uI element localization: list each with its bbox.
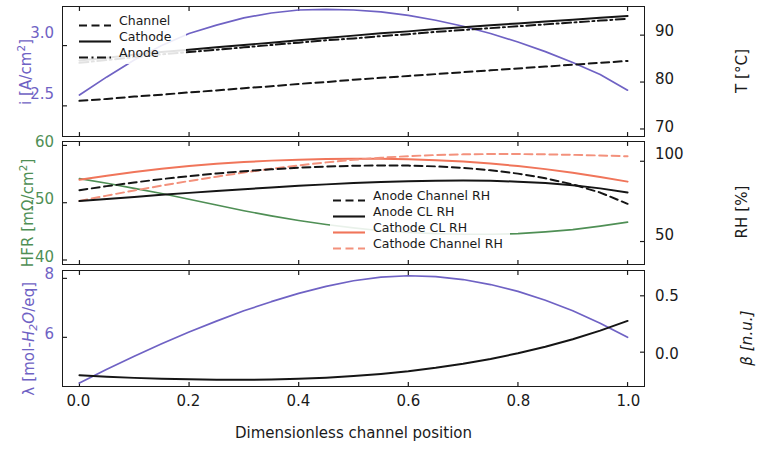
series-channel (79, 61, 627, 101)
legend-mid-item-2: Cathode CL RH (332, 221, 506, 236)
top-right-axis-label: T [°C] (733, 21, 751, 121)
legend-mid: Anode Channel RHAnode CL RHCathode CL RH… (330, 186, 510, 255)
legend-top-item-2: Anode (78, 46, 182, 61)
bot-right-axis-label: β [n.u.] (738, 283, 756, 393)
panel-bot-plot (63, 271, 644, 386)
legend-top-label: Cathode (119, 31, 171, 44)
legend-top-item-0: Channel (78, 14, 182, 29)
x-tick-0-2: 0.2 (164, 392, 214, 410)
x-axis-label: Dimensionless channel position (62, 424, 645, 442)
bot-left-axis-label-o: O (20, 312, 38, 324)
x-tick-0-4: 0.4 (274, 392, 324, 410)
legend-top: ChannelCathodeAnode (76, 11, 186, 64)
top-ytick-3-0: 3.0 (8, 24, 54, 42)
legend-line-sample-solid (332, 207, 366, 218)
mid-right-axis-label: RH [%] (733, 162, 751, 262)
top-ytick-70: 70 (655, 118, 695, 136)
x-tick-0-0: 0.0 (54, 392, 104, 410)
x-tick-0-6: 0.6 (384, 392, 434, 410)
bot-ytick-0-5: 0.5 (655, 287, 705, 305)
bot-left-axis-label-pre: λ [mol- (20, 342, 38, 396)
panel-lambda-beta (62, 270, 645, 387)
legend-mid-label: Cathode CL RH (373, 222, 467, 235)
top-ytick-90: 90 (655, 22, 695, 40)
series-water-transport-coefficient-beta (79, 321, 627, 380)
x-tick-1-0: 1.0 (604, 392, 654, 410)
mid-ytick-50: 50 (655, 226, 705, 244)
legend-line-sample-dashed (332, 191, 366, 202)
bot-left-axis-label-post: /eq] (20, 282, 38, 312)
bot-right-axis-label-text: β [n.u.] (738, 310, 756, 365)
legend-mid-label: Anode CL RH (373, 206, 454, 219)
legend-line-sample-dashed (78, 16, 112, 27)
legend-mid-label: Anode Channel RH (373, 190, 490, 203)
series-water-content-lambda (79, 276, 627, 383)
top-left-axis-label-sup: 2 (15, 45, 27, 52)
mid-ytick-60: 60 (8, 133, 54, 151)
legend-top-label: Anode (119, 47, 159, 60)
bot-ytick-6: 6 (8, 325, 54, 343)
bot-ytick-8: 8 (8, 265, 54, 283)
legend-line-sample-solid (332, 223, 366, 234)
top-ytick-80: 80 (655, 70, 695, 88)
legend-line-sample-solid (78, 32, 112, 43)
legend-top-item-1: Cathode (78, 30, 182, 45)
legend-mid-item-3: Cathode Channel RH (332, 237, 506, 252)
mid-left-axis-label-sup: 2 (17, 165, 29, 172)
legend-mid-label: Cathode Channel RH (373, 238, 503, 251)
mid-left-axis-label-end: ] (19, 159, 37, 165)
bot-ytick-0-0: 0.0 (655, 345, 705, 363)
mid-ytick-100: 100 (655, 145, 705, 163)
figure-root: i [A/cm2] 3.0 2.5 T [°C] 90 80 70 Channe… (0, 0, 768, 449)
mid-ytick-40: 40 (8, 248, 54, 266)
x-tick-0-8: 0.8 (494, 392, 544, 410)
legend-line-sample-dashdot (78, 48, 112, 59)
mid-ytick-50: 50 (8, 190, 54, 208)
legend-line-sample-dashed (332, 239, 366, 250)
legend-mid-item-0: Anode Channel RH (332, 189, 506, 204)
legend-mid-item-1: Anode CL RH (332, 205, 506, 220)
legend-top-label: Channel (119, 15, 170, 28)
top-ytick-2-5: 2.5 (8, 85, 54, 103)
